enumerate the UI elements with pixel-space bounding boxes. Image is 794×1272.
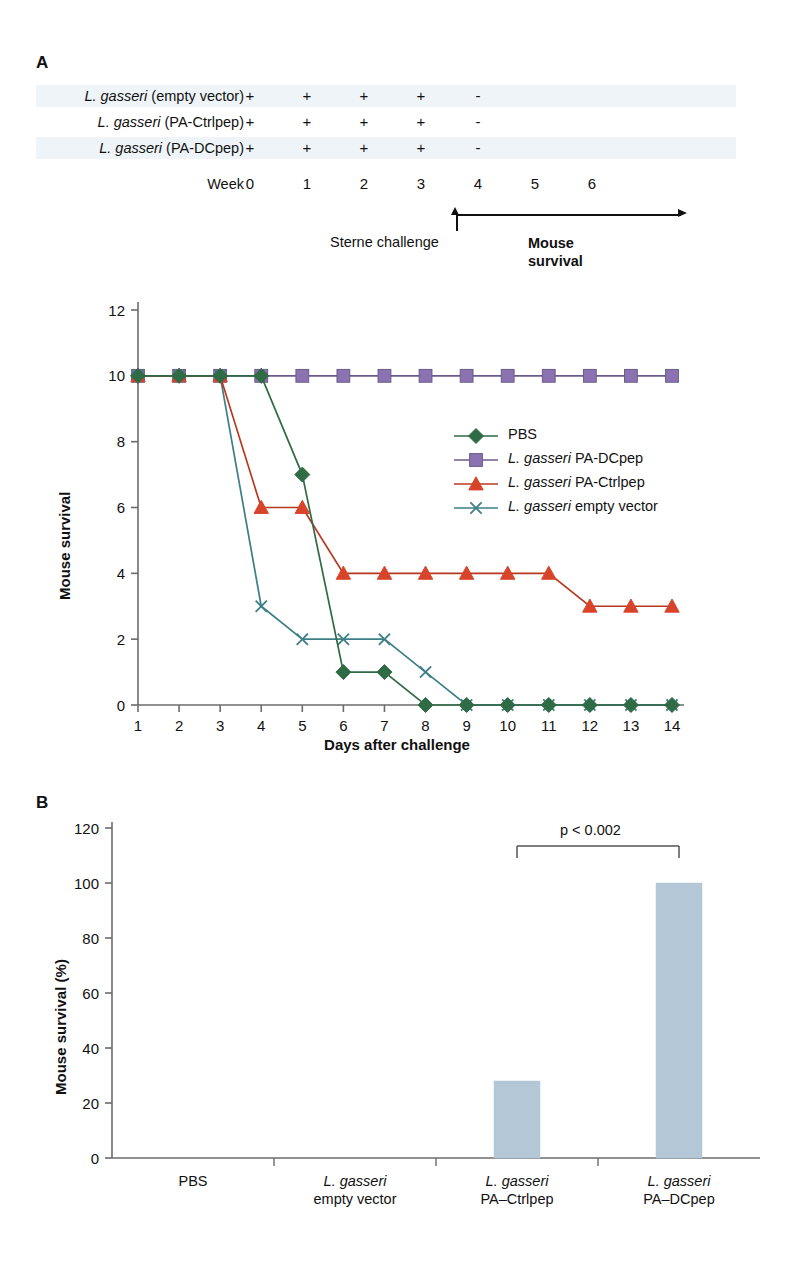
data-marker-triangle: [418, 566, 432, 579]
data-marker-cross: [379, 634, 390, 645]
panel-a-x-tick-label: 11: [541, 717, 557, 734]
data-marker-diamond: [582, 698, 597, 713]
data-marker-diamond: [418, 698, 433, 713]
mouse-survival-annotation: Mouse survival: [528, 234, 583, 270]
panel-b-y-tick-label: 80: [82, 930, 99, 947]
data-marker-triangle: [295, 500, 309, 513]
panel-b-y-axis-title: Mouse survival (%): [52, 959, 69, 1095]
data-marker-diamond: [623, 698, 638, 713]
data-marker-diamond: [500, 698, 515, 713]
panel-b-category-label: L. gasseriempty vector: [275, 1172, 435, 1208]
panel-a-y-tick-label: 10: [108, 367, 125, 384]
week-number: 1: [296, 173, 318, 195]
week-label: Week: [36, 173, 244, 195]
data-marker-square: [419, 369, 432, 382]
data-marker-cross: [584, 699, 595, 710]
panel-a-x-tick-label: 9: [462, 717, 470, 734]
legend-label-rest: empty vector: [571, 498, 658, 514]
legend-row: L. gasseri PA-Ctrlpep: [452, 472, 732, 496]
legend-label: L. gasseri PA-DCpep: [508, 450, 643, 466]
data-marker-triangle: [131, 369, 145, 382]
data-marker-cross: [420, 666, 431, 677]
significance-bracket: [517, 846, 679, 858]
data-marker-square: [378, 369, 391, 382]
schedule-row: L. gasseri (PA-Ctrlpep)++++-: [36, 111, 736, 133]
data-marker-triangle: [624, 599, 638, 612]
data-marker-cross: [666, 699, 677, 710]
schedule-dose-mark: +: [239, 85, 261, 107]
panel-a-x-tick-label: 1: [134, 717, 142, 734]
legend-label-rest: PBS: [508, 426, 537, 442]
bar: [494, 1081, 540, 1158]
category-label-italic: L. gasseri: [324, 1173, 387, 1189]
legend-label: L. gasseri empty vector: [508, 498, 658, 514]
strain-name-rest: (empty vector): [147, 88, 244, 104]
data-marker-cross: [543, 699, 554, 710]
panel-a-y-tick-label: 4: [117, 565, 125, 582]
panel-b-y-tick-label: 120: [74, 820, 99, 837]
data-marker-diamond: [459, 698, 474, 713]
data-marker-square: [173, 369, 186, 382]
panel-a-y-tick-label: 8: [117, 433, 125, 450]
legend-row: L. gasseri empty vector: [452, 496, 732, 520]
sterne-challenge-arrow-stem: [456, 213, 458, 231]
category-label-italic: L. gasseri: [486, 1173, 549, 1189]
schedule-dose-mark: +: [296, 85, 318, 107]
panel-b-category-label: L. gasseriPA–DCpep: [599, 1172, 759, 1208]
survival-window-arrow-head: [678, 209, 687, 217]
panel-b-category-label: PBS: [113, 1172, 273, 1190]
data-marker-square: [214, 369, 227, 382]
week-number: 4: [467, 173, 489, 195]
strain-name-italic: L. gasseri: [84, 88, 147, 104]
legend-marker-triangle: [452, 472, 500, 496]
data-marker-square: [501, 369, 514, 382]
data-marker-square: [583, 369, 596, 382]
schedule-dose-mark: +: [353, 137, 375, 159]
schedule-dose-mark: +: [353, 111, 375, 133]
panel-b-y-tick-label: 0: [91, 1150, 99, 1167]
schedule-dose-mark: +: [239, 137, 261, 159]
panel-a-x-tick-label: 7: [380, 717, 388, 734]
panel-a-x-tick-label: 8: [421, 717, 429, 734]
legend-label: L. gasseri PA-Ctrlpep: [508, 474, 645, 490]
series-square: [132, 369, 679, 382]
data-marker-cross: [502, 699, 513, 710]
data-marker-square: [625, 369, 638, 382]
panel-a-x-axis-title: Days after challenge: [0, 736, 794, 753]
panel-a-legend: PBSL. gasseri PA-DCpepL. gasseri PA-Ctrl…: [452, 424, 732, 520]
strain-name-rest: (PA-Ctrlpep): [160, 114, 244, 130]
panel-b-y-tick-label: 20: [82, 1095, 99, 1112]
figure-root: A L. gasseri (empty vector)++++-L. gasse…: [0, 0, 794, 1272]
category-label-line2: empty vector: [275, 1190, 435, 1208]
panel-a-y-axis-title: Mouse survival: [56, 492, 73, 600]
legend-row: L. gasseri PA-DCpep: [452, 448, 732, 472]
panel-a-x-tick-label: 5: [298, 717, 306, 734]
legend-marker-diamond: [452, 424, 500, 448]
data-marker-diamond: [665, 698, 680, 713]
panel-a-x-tick-label: 6: [339, 717, 347, 734]
strain-name-italic: L. gasseri: [98, 114, 161, 130]
data-marker-triangle: [377, 566, 391, 579]
category-label-italic: L. gasseri: [648, 1173, 711, 1189]
data-marker-cross: [297, 634, 308, 645]
legend-label-italic: L. gasseri: [508, 450, 571, 466]
schedule-row-label: L. gasseri (empty vector): [36, 85, 244, 107]
legend-label-rest: PA-DCpep: [571, 450, 643, 466]
data-marker-diamond: [213, 368, 228, 383]
category-label-line1: PBS: [113, 1172, 273, 1190]
panel-a-x-tick-label: 2: [175, 717, 183, 734]
legend-label-italic: L. gasseri: [508, 498, 571, 514]
week-number: 0: [239, 173, 261, 195]
data-marker-diamond: [469, 429, 484, 444]
legend-marker-cross: [452, 496, 500, 520]
panel-a-letter: A: [36, 53, 49, 73]
data-marker-cross: [338, 634, 349, 645]
data-marker-triangle: [500, 566, 514, 579]
panel-b-letter: B: [36, 793, 49, 813]
mouse-survival-annotation-line1: Mouse: [528, 234, 583, 252]
schedule-dose-mark: -: [467, 137, 489, 159]
schedule-row: L. gasseri (PA-DCpep)++++-: [36, 137, 736, 159]
data-marker-triangle: [665, 599, 679, 612]
data-marker-triangle: [459, 566, 473, 579]
data-marker-square: [470, 454, 483, 467]
